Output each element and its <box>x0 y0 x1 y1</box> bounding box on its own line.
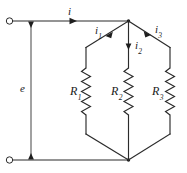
resistor-1-base: R <box>70 84 77 98</box>
top-terminal-node <box>6 18 12 24</box>
source-arrow-top-icon <box>28 22 34 29</box>
source-voltage-label: e <box>20 83 25 94</box>
branch-3-current-sub: 3 <box>158 31 162 40</box>
resistor-3-symbol <box>166 68 175 115</box>
branch-1-bottom-diagonal <box>86 134 129 160</box>
resistor-3-label: R3 <box>152 85 163 100</box>
bottom-terminal-node <box>6 157 12 163</box>
resistor-2-symbol <box>124 68 133 115</box>
total-current-label: i <box>68 6 71 17</box>
branch-2-current-sub: 2 <box>138 47 142 56</box>
circuit-diagram: i i1 i2 i3 e R1 R2 R3 <box>0 0 187 173</box>
resistor-3-base: R <box>152 84 159 98</box>
branch-3-current-label: i3 <box>155 24 162 38</box>
branch-1-current-label: i1 <box>95 25 102 39</box>
resistor-2-base: R <box>111 84 118 98</box>
branch-1-current-sub: 1 <box>98 32 102 41</box>
resistor-1-label: R1 <box>70 85 81 100</box>
branch-2-current-arrow-icon <box>126 44 132 51</box>
resistor-3-sub: 3 <box>160 93 164 102</box>
total-current-arrow-icon <box>70 18 78 24</box>
branch-2-current-label: i2 <box>135 40 142 54</box>
resistor-2-label: R2 <box>111 85 122 100</box>
branch-3-bottom-diagonal <box>129 134 171 160</box>
source-arrow-bottom-icon <box>28 153 34 160</box>
resistor-1-symbol <box>82 68 91 115</box>
branch-1-top-diagonal <box>86 21 129 48</box>
resistor-2-sub: 2 <box>119 93 123 102</box>
resistor-1-sub: 1 <box>78 93 82 102</box>
